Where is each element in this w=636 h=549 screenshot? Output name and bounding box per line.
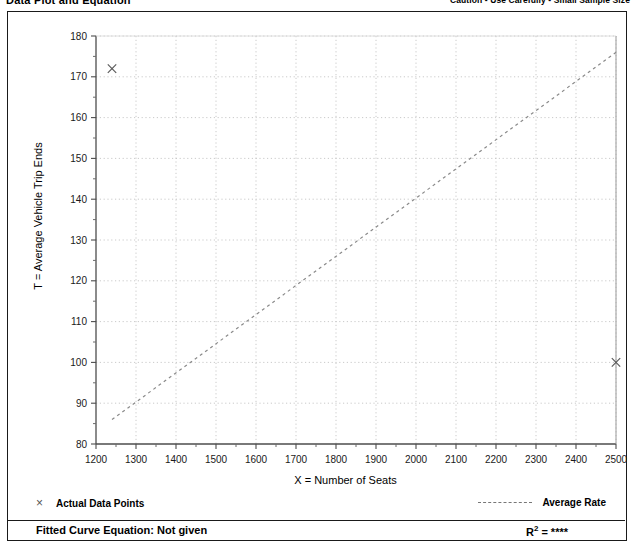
svg-text:2500: 2500 xyxy=(605,454,628,465)
svg-text:150: 150 xyxy=(70,153,87,164)
legend-item-actual: × Actual Data Points xyxy=(34,497,144,509)
r-squared-number: = **** xyxy=(541,526,568,538)
chart-svg: 8090100110120130140150160170180120013001… xyxy=(8,12,628,492)
tick-marks xyxy=(91,36,616,449)
tick-labels: 8090100110120130140150160170180120013001… xyxy=(70,31,627,465)
svg-text:100: 100 xyxy=(70,357,87,368)
svg-text:1300: 1300 xyxy=(125,454,148,465)
chart-panel: T = Average Vehicle Trip Ends 8090100110… xyxy=(7,11,627,541)
x-axis-title: X = Number of Seats xyxy=(8,474,628,486)
svg-text:1400: 1400 xyxy=(165,454,188,465)
svg-text:170: 170 xyxy=(70,71,87,82)
svg-text:1200: 1200 xyxy=(85,454,108,465)
chart-legend: × Actual Data Points Average Rate xyxy=(8,494,628,520)
caution-note: Caution - Use Carefully - Small Sample S… xyxy=(450,0,630,5)
svg-text:120: 120 xyxy=(70,275,87,286)
svg-text:140: 140 xyxy=(70,194,87,205)
page-title: Data Plot and Equation xyxy=(6,0,131,6)
x-axis-title-text: X = Number of Seats xyxy=(294,474,396,486)
svg-text:2300: 2300 xyxy=(525,454,548,465)
plot-area: T = Average Vehicle Trip Ends 8090100110… xyxy=(8,12,628,492)
svg-text:110: 110 xyxy=(71,316,87,327)
svg-text:130: 130 xyxy=(70,235,87,246)
svg-text:80: 80 xyxy=(76,439,88,450)
svg-text:1900: 1900 xyxy=(365,454,388,465)
svg-text:2400: 2400 xyxy=(565,454,588,465)
r-squared-value: R2 = **** xyxy=(526,524,568,538)
svg-text:180: 180 xyxy=(70,31,87,42)
r-squared-exponent: 2 xyxy=(534,524,538,533)
equation-footer: Fitted Curve Equation: Not given R2 = **… xyxy=(8,520,628,540)
svg-text:2000: 2000 xyxy=(405,454,428,465)
svg-text:2100: 2100 xyxy=(445,454,468,465)
svg-text:90: 90 xyxy=(76,398,88,409)
svg-text:160: 160 xyxy=(70,112,87,123)
page-header: Data Plot and Equation Caution - Use Car… xyxy=(0,0,636,11)
svg-text:1700: 1700 xyxy=(285,454,308,465)
svg-text:1600: 1600 xyxy=(245,454,268,465)
gridlines xyxy=(96,36,616,444)
x-marker-icon: × xyxy=(34,497,45,509)
fitted-curve-equation: Fitted Curve Equation: Not given xyxy=(36,524,207,536)
r-squared-prefix: R xyxy=(526,526,534,538)
svg-text:1800: 1800 xyxy=(325,454,348,465)
svg-text:2200: 2200 xyxy=(485,454,508,465)
legend-item-rate: Average Rate xyxy=(478,497,606,508)
data-series xyxy=(108,52,620,419)
legend-label-actual: Actual Data Points xyxy=(56,498,144,509)
dashed-line-icon xyxy=(478,502,532,503)
svg-text:1500: 1500 xyxy=(205,454,228,465)
legend-label-rate: Average Rate xyxy=(542,497,606,508)
